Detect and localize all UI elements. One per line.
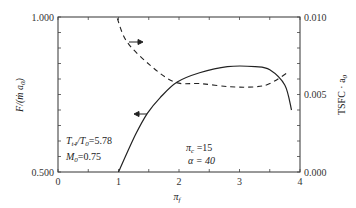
x-tick-label: 4 [298, 176, 303, 187]
x-tick-label: 2 [177, 176, 182, 187]
y-right-tick-mid: 0.005 [304, 89, 327, 100]
plot-frame [58, 17, 300, 172]
chart: 01234 1.000 0.500 0.010 0.005 0.000 F/(ṁ… [0, 0, 356, 208]
y-right-axis-label: TSFC · a0 [336, 74, 349, 115]
left-arrow-icon [134, 112, 147, 117]
x-tick-label: 1 [116, 176, 121, 187]
right-arrow-icon [129, 40, 143, 45]
y-ticks [58, 17, 300, 172]
tsfc-curve [117, 19, 287, 88]
annotation-compressor-ratio: πc =15 [186, 142, 212, 155]
y-right-tick-bottom: 0.000 [304, 167, 327, 178]
x-tick-labels: 01234 [56, 176, 303, 187]
x-tick-label: 3 [237, 176, 242, 187]
y-left-axis-label: F/(ṁ a0) [14, 77, 27, 112]
annotation-temperature-ratio: Tt4/T0=5.78 [66, 135, 112, 148]
y-left-tick-bottom: 0.500 [32, 167, 55, 178]
y-right-tick-top: 0.010 [304, 12, 327, 23]
x-ticks [58, 17, 300, 172]
y-left-tick-top: 1.000 [32, 12, 55, 23]
x-axis-label: πf [174, 191, 182, 204]
annotation-bypass-ratio: α = 40 [188, 155, 215, 166]
annotation-mach: M0=0.75 [65, 151, 101, 164]
x-tick-label: 0 [56, 176, 61, 187]
